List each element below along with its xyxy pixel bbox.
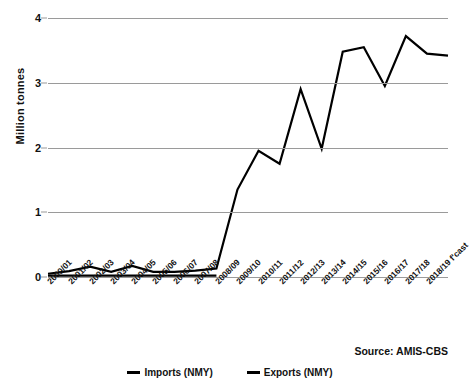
y-axis-tick [41, 82, 47, 83]
y-axis-tick [41, 147, 47, 148]
y-axis-tick [41, 18, 47, 19]
gridline [48, 83, 448, 84]
y-axis-tick-label: 2 [35, 142, 41, 154]
series-line [48, 36, 448, 274]
legend-label: Imports (NMY) [144, 367, 212, 378]
legend-line-icon [127, 371, 140, 374]
gridline [48, 212, 448, 213]
y-axis-tick-label: 4 [35, 12, 41, 24]
gridline [48, 18, 448, 19]
legend-line-icon [247, 371, 260, 374]
x-axis-labels: 2000/012001/022002/032003/042004/052005/… [48, 279, 448, 341]
gridline [48, 148, 448, 149]
y-axis-tick-label: 0 [35, 271, 41, 283]
y-axis-tick-label: 1 [35, 206, 41, 218]
y-axis-tick [41, 212, 47, 213]
chart-legend: Imports (NMY)Exports (NMY) [0, 367, 460, 378]
y-axis-title: Million tonnes [14, 46, 26, 166]
legend-item[interactable]: Imports (NMY) [127, 367, 212, 378]
source-note: Source: AMIS-CBS [354, 345, 448, 357]
y-axis-tick-label: 3 [35, 77, 41, 89]
legend-label: Exports (NMY) [264, 367, 333, 378]
plot-area: 01234 [48, 18, 448, 277]
legend-item[interactable]: Exports (NMY) [247, 367, 333, 378]
